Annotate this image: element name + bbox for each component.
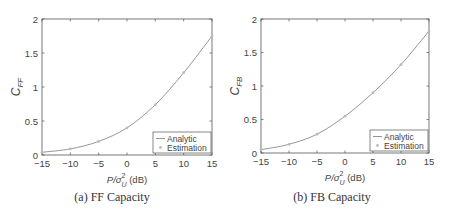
panel-fb-capacity: −15−10−505101500.511.52CFBP/σ2U (dB)Anal…: [220, 0, 444, 224]
estimation-marker: [154, 103, 157, 106]
y-tick-label: 1.5: [244, 47, 257, 58]
x-axis-label: P/σ2U (dB): [107, 172, 147, 188]
y-tick-label: 0: [252, 148, 257, 159]
x-tick-label: 15: [424, 156, 435, 167]
estimation-marker: [400, 63, 403, 66]
x-tick-label: 10: [178, 158, 189, 169]
y-tick-label: 0.5: [244, 114, 257, 125]
legend-marker-icon: [376, 144, 379, 147]
y-tick-label: 2: [252, 14, 257, 25]
estimation-marker: [288, 143, 291, 146]
y-tick-label: 1: [33, 82, 38, 93]
x-tick-label: −5: [93, 158, 104, 169]
panel-ff-capacity: −15−10−505101500.511.52CFFP/σ2U (dB)Anal…: [0, 0, 224, 224]
estimation-marker: [97, 140, 100, 143]
y-axis-label: CFB: [228, 76, 244, 96]
legend-marker-icon: [159, 146, 162, 149]
y-tick-label: 1: [252, 81, 257, 92]
x-tick-label: −5: [312, 156, 323, 167]
x-axis-label: P/σ2U (dB): [325, 170, 365, 186]
x-tick-label: 0: [124, 158, 129, 169]
y-tick-label: 0.5: [25, 116, 38, 127]
estimation-marker: [344, 115, 347, 118]
legend-label-estimation: Estimation: [384, 141, 424, 151]
estimation-marker: [372, 91, 375, 94]
x-tick-label: 5: [153, 158, 158, 169]
y-tick-label: 1.5: [25, 48, 38, 59]
estimation-marker: [41, 151, 44, 154]
x-tick-label: −10: [62, 158, 78, 169]
y-axis-label: CFF: [9, 77, 25, 97]
estimation-marker: [126, 126, 129, 129]
ff-capacity-chart: −15−10−505101500.511.52CFFP/σ2U (dB)Anal…: [0, 0, 224, 190]
estimation-marker: [260, 148, 263, 151]
x-tick-label: −10: [281, 156, 297, 167]
legend: AnalyticEstimation: [153, 132, 211, 153]
x-tick-label: 10: [396, 156, 407, 167]
x-tick-label: 5: [370, 156, 375, 167]
x-tick-label: 15: [207, 158, 218, 169]
estimation-marker: [428, 30, 431, 33]
legend: AnalyticEstimation: [370, 130, 428, 151]
estimation-marker: [182, 71, 185, 74]
fb-capacity-chart: −15−10−505101500.511.52CFBP/σ2U (dB)Anal…: [220, 0, 449, 190]
estimation-marker: [69, 147, 72, 150]
figure-caption-a: (a) FF Capacity: [0, 190, 224, 205]
estimation-marker: [316, 133, 319, 136]
estimation-marker: [211, 35, 214, 38]
y-tick-label: 0: [33, 150, 38, 161]
x-tick-label: 0: [342, 156, 347, 167]
figure-caption-b: (b) FB Capacity: [220, 190, 444, 205]
legend-label-estimation: Estimation: [167, 143, 207, 153]
y-tick-label: 2: [33, 14, 38, 25]
